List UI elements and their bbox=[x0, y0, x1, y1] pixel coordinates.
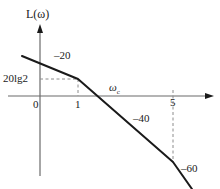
x-axis-arrow-icon bbox=[205, 93, 214, 99]
slope-label-minus-40: –40 bbox=[133, 113, 150, 124]
bode-magnitude-plot: L(ω) 20lg2 0 1 5 ωc –20 –40 –60 bbox=[0, 0, 220, 189]
slope-label-minus-60: –60 bbox=[181, 163, 198, 174]
y-axis-arrow-icon bbox=[37, 24, 43, 33]
y-axis-label: L(ω) bbox=[26, 8, 49, 20]
x-tick-label-0: 0 bbox=[33, 99, 39, 110]
x-tick-label-5: 5 bbox=[170, 97, 176, 108]
magnitude-curve bbox=[22, 56, 192, 189]
slope-label-minus-20: –20 bbox=[54, 50, 71, 61]
guide-lines bbox=[40, 79, 173, 163]
curve-polyline bbox=[22, 56, 192, 189]
crossover-frequency-label: ωc bbox=[109, 82, 120, 96]
omega-subscript: c bbox=[117, 88, 120, 96]
omega-symbol: ω bbox=[109, 81, 117, 93]
x-tick-label-1: 1 bbox=[75, 99, 81, 110]
gain-value-label: 20lg2 bbox=[3, 73, 28, 84]
